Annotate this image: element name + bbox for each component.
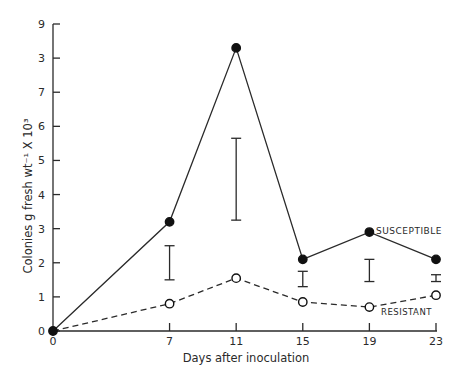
- error-bar: [165, 246, 175, 280]
- y-tick-label: 4: [38, 189, 45, 202]
- susceptible-point: [432, 255, 440, 263]
- resistant-point: [232, 274, 240, 282]
- error-bar: [231, 138, 241, 220]
- x-tick-label: 11: [229, 335, 243, 348]
- series-lines: [49, 44, 440, 336]
- y-axis-label: Colonies g fresh wt⁻¹ X 10³: [21, 118, 35, 273]
- series-label-resistant: RESISTANT: [381, 307, 432, 317]
- y-tick-label: 5: [38, 154, 45, 167]
- y-tick-label: 2: [38, 257, 45, 270]
- line-chart: 01234567390711151923 Days after inoculat…: [0, 0, 465, 380]
- y-tick-label: 6: [38, 120, 45, 133]
- axes: [53, 24, 437, 331]
- x-axis-label: Days after inoculation: [183, 351, 310, 365]
- y-tick-label: 1: [38, 291, 45, 304]
- y-tick-label: 9: [38, 18, 45, 31]
- x-tick-label: 0: [50, 335, 57, 348]
- susceptible-point: [299, 255, 307, 263]
- resistant-point: [299, 298, 307, 306]
- susceptible-point: [165, 218, 173, 226]
- error-bar: [364, 259, 374, 281]
- susceptible-point: [365, 228, 373, 236]
- series-label-susceptible: SUSCEPTIBLE: [376, 226, 442, 236]
- x-tick-label: 7: [166, 335, 173, 348]
- y-tick-label: 0: [38, 325, 45, 338]
- x-tick-label: 15: [296, 335, 310, 348]
- susceptible-line: [53, 48, 436, 331]
- tick-labels: 01234567390711151923: [38, 18, 443, 348]
- susceptible-point: [49, 327, 57, 335]
- y-tick-label: 3: [38, 52, 45, 65]
- resistant-line: [53, 278, 436, 331]
- x-tick-label: 23: [429, 335, 443, 348]
- resistant-point: [365, 303, 373, 311]
- x-tick-label: 19: [362, 335, 376, 348]
- resistant-point: [165, 300, 173, 308]
- error-bar: [431, 275, 441, 282]
- susceptible-point: [232, 44, 240, 52]
- error-bars: [165, 138, 441, 286]
- y-tick-label: 7: [38, 86, 45, 99]
- axis-labels: Days after inoculation Colonies g fresh …: [21, 118, 442, 365]
- error-bar: [298, 271, 308, 286]
- resistant-point: [432, 291, 440, 299]
- y-tick-label: 3: [38, 223, 45, 236]
